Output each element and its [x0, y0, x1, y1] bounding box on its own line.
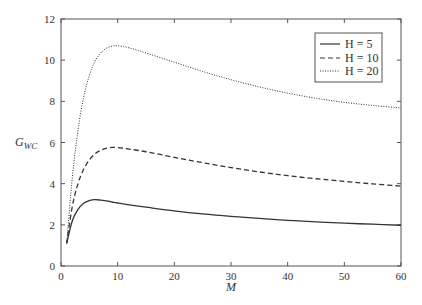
- legend-label: H = 5: [345, 37, 372, 51]
- legend: H = 5 H = 10 H = 20: [315, 33, 382, 82]
- x-tick-label: 20: [169, 270, 181, 282]
- x-tick-label: 40: [282, 270, 294, 282]
- y-axis-label-subscript: WC: [24, 141, 38, 151]
- x-tick-label: 0: [58, 270, 64, 282]
- y-axis-label: GWC: [15, 135, 38, 151]
- y-tick-label: 0: [50, 260, 56, 272]
- x-tick-label: 10: [112, 270, 124, 282]
- x-axis-label: M: [225, 280, 237, 294]
- y-axis-label-main: G: [15, 135, 24, 149]
- chart-figure: 0102030405060 024681012 M GWC H = 5 H = …: [0, 0, 422, 305]
- line-chart: 0102030405060 024681012 M GWC H = 5 H = …: [0, 0, 422, 305]
- y-tick-label: 2: [50, 219, 56, 231]
- x-tick-label: 60: [396, 270, 408, 282]
- legend-label: H = 20: [345, 64, 378, 78]
- y-tick-label: 12: [44, 13, 55, 25]
- y-tick-label: 10: [44, 54, 56, 66]
- y-tick-label: 6: [50, 137, 56, 149]
- y-tick-labels: 024681012: [44, 13, 56, 272]
- y-tick-label: 8: [50, 95, 56, 107]
- legend-label: H = 10: [345, 51, 378, 65]
- x-tick-label: 50: [339, 270, 351, 282]
- y-tick-label: 4: [50, 178, 56, 190]
